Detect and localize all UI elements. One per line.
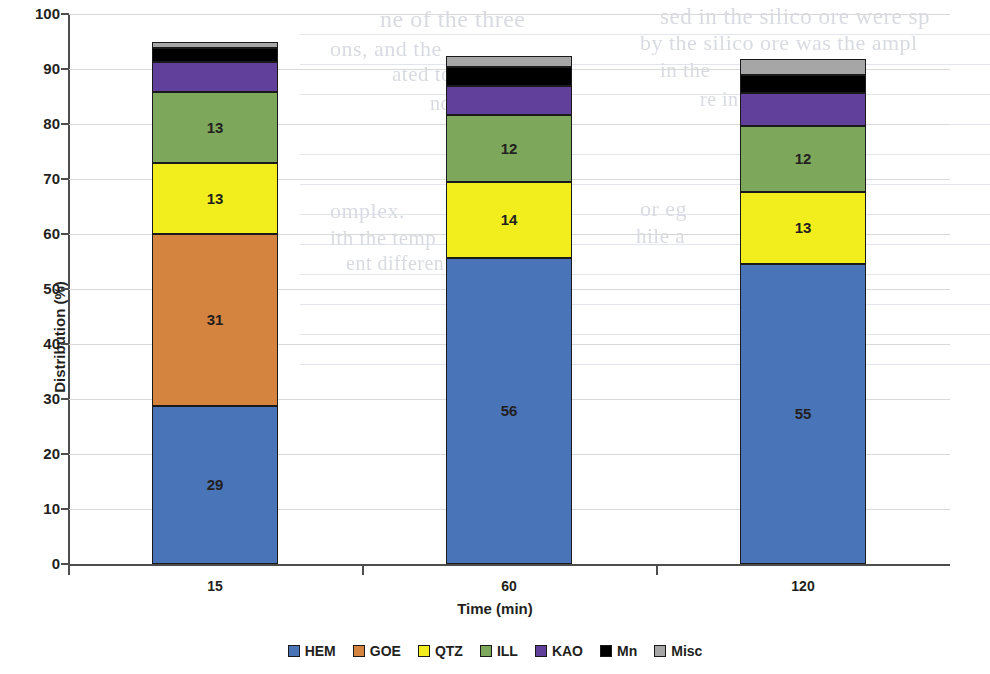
bar-segment-misc[interactable] (740, 59, 866, 75)
bar-group[interactable]: 561412 (446, 14, 572, 564)
y-tick-label: 70 (14, 170, 60, 187)
y-tick-label: 20 (14, 445, 60, 462)
bar-segment-kao[interactable] (446, 86, 572, 115)
bar-value-label: 12 (795, 151, 812, 166)
bar-value-label: 55 (795, 406, 812, 421)
x-tick-mark (656, 566, 658, 575)
y-tick-label: 10 (14, 500, 60, 517)
x-axis-line (68, 564, 950, 566)
x-tick-label: 15 (155, 578, 275, 594)
bar-value-label: 13 (207, 191, 224, 206)
y-tick-label: 100 (14, 5, 60, 22)
bar-segment-kao[interactable] (740, 93, 866, 125)
bar-value-label: 13 (795, 220, 812, 235)
x-tick-mark (362, 566, 364, 575)
bar-segment-ill[interactable]: 12 (446, 115, 572, 182)
bar-segment-mn[interactable] (446, 67, 572, 86)
bar-segment-ill[interactable]: 12 (740, 126, 866, 192)
bar-segment-qtz[interactable]: 14 (446, 182, 572, 257)
bar-segment-mn[interactable] (740, 75, 866, 93)
y-tick-mark (61, 178, 69, 180)
bar-group[interactable]: 29311313 (152, 14, 278, 564)
y-tick-label: 30 (14, 390, 60, 407)
y-tick-label: 0 (14, 555, 60, 572)
y-tick-mark (61, 288, 69, 290)
x-tick-mark (68, 566, 70, 575)
bar-value-label: 14 (501, 212, 518, 227)
bar-value-label: 29 (207, 477, 224, 492)
bar-segment-hem[interactable]: 29 (152, 406, 278, 564)
y-tick-label: 80 (14, 115, 60, 132)
x-tick-label: 60 (449, 578, 569, 594)
bar-group[interactable]: 551312 (740, 14, 866, 564)
x-axis-title: Time (min) (0, 600, 990, 617)
bar-value-label: 56 (501, 403, 518, 418)
bar-segment-ill[interactable]: 13 (152, 92, 278, 162)
y-tick-mark (61, 453, 69, 455)
y-tick-mark (61, 398, 69, 400)
y-tick-label: 40 (14, 335, 60, 352)
x-tick-label: 120 (743, 578, 863, 594)
y-tick-mark (61, 563, 69, 565)
y-tick-mark (61, 233, 69, 235)
bar-value-label: 31 (207, 312, 224, 327)
bar-segment-goe[interactable]: 31 (152, 234, 278, 406)
bar-segment-qtz[interactable]: 13 (152, 163, 278, 235)
bar-segment-hem[interactable]: 56 (446, 258, 572, 564)
bar-segment-mn[interactable] (152, 48, 278, 62)
bar-segment-misc[interactable] (446, 56, 572, 67)
bar-value-label: 13 (207, 120, 224, 135)
y-tick-mark (61, 508, 69, 510)
bar-segment-qtz[interactable]: 13 (740, 192, 866, 264)
stacked-bar-chart: Distribution (%) Time (min) 293113135614… (0, 0, 990, 674)
bar-segment-hem[interactable]: 55 (740, 264, 866, 564)
y-tick-label: 90 (14, 60, 60, 77)
y-tick-mark (61, 343, 69, 345)
y-tick-mark (61, 68, 69, 70)
bar-segment-kao[interactable] (152, 62, 278, 92)
bar-value-label: 12 (501, 141, 518, 156)
y-tick-label: 50 (14, 280, 60, 297)
y-tick-mark (61, 13, 69, 15)
bar-segment-misc[interactable] (152, 42, 278, 49)
y-tick-mark (61, 123, 69, 125)
y-tick-label: 60 (14, 225, 60, 242)
plot-area: 29311313561412551312 (68, 14, 950, 564)
